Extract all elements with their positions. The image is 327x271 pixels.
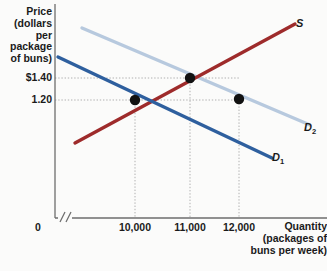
x-axis-title: Quantity (packages of buns per week) xyxy=(238,221,327,256)
chart-figure: Price (dollars per package of buns) $1.4… xyxy=(0,0,327,271)
demand2-curve-label: D2 xyxy=(304,121,316,137)
demand1-curve xyxy=(58,57,272,158)
demand2-curve-label-sub: 2 xyxy=(312,127,316,136)
axis-break-icon xyxy=(58,212,72,223)
y-axis-title: Price (dollars per package of buns) xyxy=(0,6,52,65)
point-equilibrium-new xyxy=(185,73,195,83)
axis-lines xyxy=(55,4,327,218)
x-tick-label-10000: 10,000 xyxy=(108,222,162,234)
supply-curve xyxy=(75,24,295,143)
point-quantity-demanded-at-old-price xyxy=(234,94,244,104)
demand2-curve-label-text: D xyxy=(304,121,312,133)
supply-curve-label-text: S xyxy=(296,17,303,29)
y-tick-label-120: 1.20 xyxy=(0,94,52,106)
demand1-curve-label-sub: 1 xyxy=(280,157,284,166)
supply-curve-label: S xyxy=(296,17,303,29)
demand1-curve-label-text: D xyxy=(272,151,280,163)
y-tick-label-140: $1.40 xyxy=(0,72,52,84)
demand1-curve-label: D1 xyxy=(272,151,284,167)
origin-label: 0 xyxy=(30,222,46,234)
point-equilibrium-original xyxy=(130,95,140,105)
x-tick-label-11000: 11,000 xyxy=(163,222,217,234)
